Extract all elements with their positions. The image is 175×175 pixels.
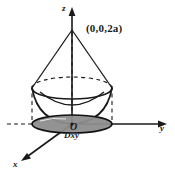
z-axis-arrowhead [69,7,76,16]
cone-apex-point-label: (0,0,2a) [86,23,122,34]
cone-right-generatrix [72,30,112,88]
y-axis-label: y [160,124,164,133]
cone-left-generatrix [32,30,72,88]
z-axis-label: z [62,4,66,13]
x-axis-label: x [13,160,18,169]
figure-canvas: z y x O Dxy (0,0,2a) [0,0,175,175]
projection-region-label: Dxy [64,131,79,140]
